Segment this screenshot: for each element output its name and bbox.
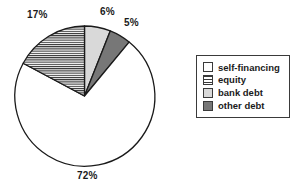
data-label-self-financing: 72% [77,170,98,181]
legend-item-equity: equity [203,74,284,87]
legend-item-bank-debt: bank debt [203,87,284,100]
legend-label-self-financing: self-financing [218,63,280,73]
chart-legend: self-financing equity bank debt other de… [196,55,290,118]
light-gray-swatch-icon [203,88,213,98]
hatched-swatch-icon [203,75,213,85]
white-swatch-icon [203,62,213,72]
data-label-equity: 17% [27,9,48,20]
legend-label-other-debt: other debt [218,101,264,111]
data-label-other-debt: 5% [124,17,139,28]
dark-gray-swatch-icon [203,101,213,111]
legend-label-bank-debt: bank debt [218,88,263,98]
legend-item-other-debt: other debt [203,99,284,112]
legend-item-self-financing: self-financing [203,61,284,74]
pie-chart-figure: 17% 6% 5% 72% self-financing equity bank… [0,0,303,188]
data-label-bank-debt: 6% [100,6,115,17]
legend-label-equity: equity [218,75,246,85]
